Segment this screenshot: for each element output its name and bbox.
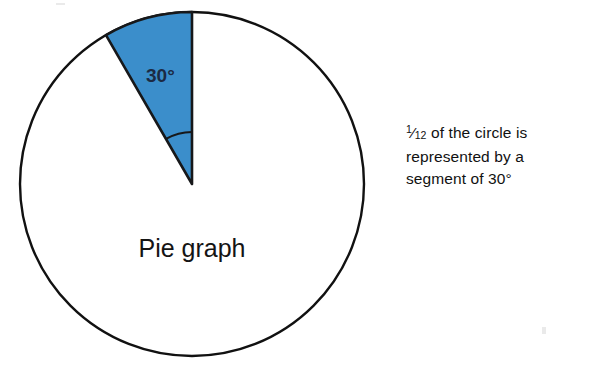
pie-graph-label: Pie graph xyxy=(138,234,245,262)
caption-line-3: segment of 30° xyxy=(406,168,586,190)
scan-artifact-top xyxy=(56,3,65,5)
fraction-denominator: 12 xyxy=(415,129,427,141)
fraction-one-twelfth: 1⁄12 xyxy=(406,118,427,146)
caption-line-2: represented by a xyxy=(406,146,586,168)
caption-line-1: 1⁄12 of the circle is xyxy=(406,118,586,146)
pie-graph-illustration: 30° Pie graph xyxy=(0,0,400,371)
caption-line-1-rest: of the circle is xyxy=(427,124,528,141)
figure-root: 30° Pie graph 1⁄12 of the circle is repr… xyxy=(0,0,589,371)
caption-text-block: 1⁄12 of the circle is represented by a s… xyxy=(406,118,586,190)
scan-artifact-right xyxy=(542,327,546,334)
segment-angle-label: 30° xyxy=(146,65,175,86)
